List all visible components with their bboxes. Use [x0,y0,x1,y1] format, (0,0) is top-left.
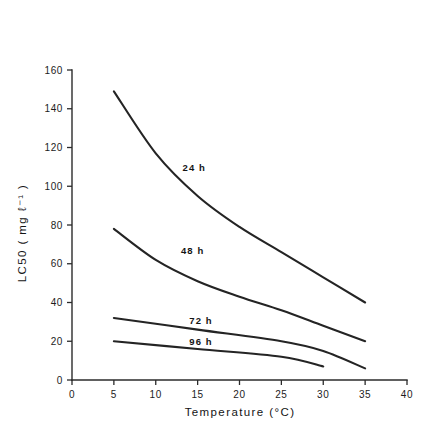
x-axis-tick-labels: 0510152025303540 [69,389,413,400]
series-label-24-h: 24 h [183,162,206,173]
y-tick-label: 120 [45,142,64,153]
x-tick-label: 25 [275,389,287,400]
x-tick-label: 15 [191,389,203,400]
x-tick-label: 20 [233,389,245,400]
curve-96-h [114,341,323,366]
series-label-72-h: 72 h [189,315,212,326]
x-tick-label: 30 [317,389,329,400]
x-tick-label: 40 [401,389,413,400]
x-tick-label: 0 [69,389,75,400]
x-tick-label: 10 [150,389,162,400]
x-axis: 0510152025303540 [69,380,413,400]
y-tick-label: 160 [45,65,64,76]
lc50-temperature-line-chart: 020406080100120140160 0510152025303540 2… [0,0,437,433]
data-curves [114,91,365,368]
x-axis-ticks [72,380,407,385]
x-axis-title: Temperature (°C) [185,406,296,418]
y-axis-ticks [67,70,72,380]
curve-48-h [114,229,365,341]
x-tick-label: 5 [111,389,117,400]
y-tick-label: 140 [45,103,64,114]
series-label-48-h: 48 h [181,245,204,256]
chart-figure: 020406080100120140160 0510152025303540 2… [0,0,437,433]
y-tick-label: 60 [51,258,63,269]
y-axis-tick-labels: 020406080100120140160 [45,65,64,386]
y-tick-label: 100 [45,181,64,192]
y-tick-label: 40 [51,297,63,308]
x-tick-label: 35 [359,389,371,400]
y-tick-label: 80 [51,220,63,231]
series-label-96-h: 96 h [189,336,212,347]
curve-24-h [114,91,365,302]
y-axis-title: LC50 ( mg ℓ⁻¹ ) [16,184,28,282]
curve-72-h [114,318,365,368]
series-annotations: 24 h48 h72 h96 h [181,162,213,347]
y-tick-label: 0 [57,375,63,386]
y-tick-label: 20 [51,336,63,347]
y-axis: 020406080100120140160 [45,65,73,386]
